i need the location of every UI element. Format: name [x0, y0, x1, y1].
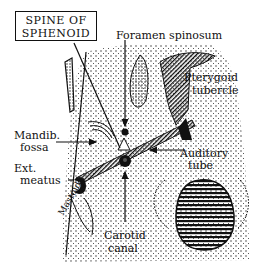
external-meatus-label-line2: meatus [20, 175, 61, 186]
external-meatus-label-line1: Ext. [14, 163, 36, 174]
spine-of-sphenoid-label-box: SPINE OF SPHENOID [15, 11, 97, 41]
auditory-tube-label-line2: tube [188, 160, 213, 171]
pterygoid-tubercle-label-line1: Pterygoid [184, 72, 238, 83]
spine-of-sphenoid-label-line1: SPINE OF [16, 14, 96, 27]
mandibular-fossa-label-line1: Mandib. [14, 130, 60, 141]
spine-of-sphenoid-label-line2: SPHENOID [16, 27, 96, 40]
zygomatic-root [65, 58, 74, 112]
auditory-tube-label-line1: Auditory [180, 148, 228, 159]
foramen-spinosum-label: Foramen spinosum [116, 30, 222, 41]
mandibular-fossa-label-line2: fossa [20, 142, 49, 153]
carotid-canal-label-line2: canal [108, 243, 138, 254]
pterygoid-tubercle-label-line2: tubercle [192, 85, 239, 96]
foramen-spinosum [122, 129, 129, 136]
carotid-canal-label-line1: Carotid [104, 230, 146, 241]
striped-oval-structure [176, 180, 234, 250]
